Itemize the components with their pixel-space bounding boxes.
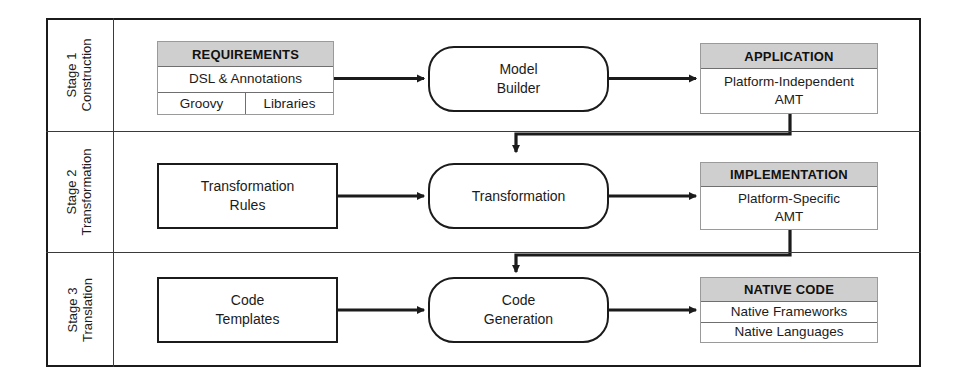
artifact-application[interactable]: APPLICATION Platform-Independent AMT <box>700 43 878 114</box>
process-code-generation-line2: Generation <box>484 310 553 329</box>
process-transformation[interactable]: Transformation <box>428 163 609 229</box>
box-transformation-rules[interactable]: Transformation Rules <box>157 163 338 229</box>
artifact-implementation-line2: AMT <box>738 208 840 226</box>
process-model-builder-line2: Builder <box>497 79 541 98</box>
process-code-generation-line1: Code <box>484 291 553 310</box>
stage-1-label-line2: Construction <box>80 38 95 111</box>
process-code-generation[interactable]: Code Generation <box>428 277 609 343</box>
stage-divider-1 <box>46 131 921 132</box>
process-transformation-line1: Transformation <box>472 187 566 206</box>
box-transformation-rules-label: Transformation Rules <box>201 177 295 215</box>
artifact-requirements-cell-groovy: Groovy <box>158 93 246 115</box>
artifact-native-code[interactable]: NATIVE CODE Native Frameworks Native Lan… <box>700 277 878 343</box>
stage-label-stage-2: Stage 2 Transformation <box>46 131 113 252</box>
stage-divider-2 <box>46 252 921 253</box>
artifact-application-header: APPLICATION <box>701 44 877 69</box>
box-transformation-rules-line1: Transformation <box>201 177 295 196</box>
box-transformation-rules-line2: Rules <box>201 196 295 215</box>
artifact-requirements-cell-libraries: Libraries <box>246 93 333 115</box>
process-code-generation-label: Code Generation <box>484 291 553 329</box>
box-code-templates[interactable]: Code Templates <box>157 277 338 343</box>
artifact-implementation[interactable]: IMPLEMENTATION Platform-Specific AMT <box>700 162 878 230</box>
artifact-implementation-header: IMPLEMENTATION <box>701 163 877 187</box>
stage-3-label-line2: Translation <box>79 278 94 342</box>
process-model-builder[interactable]: Model Builder <box>428 46 609 112</box>
stage-label-stage-3: Stage 3 Translation <box>46 252 113 367</box>
artifact-implementation-line1: Platform-Specific <box>738 190 840 208</box>
stage-2-label-line1: Stage 2 <box>65 148 80 235</box>
artifact-requirements-row-dsl: DSL & Annotations <box>158 67 333 93</box>
box-code-templates-line1: Code <box>216 291 280 310</box>
artifact-application-line2: AMT <box>724 91 854 109</box>
artifact-application-line1: Platform-Independent <box>724 73 854 91</box>
stage-label-stage-1: Stage 1 Construction <box>46 18 113 131</box>
stage-2-label-line2: Transformation <box>80 148 95 235</box>
box-code-templates-label: Code Templates <box>216 291 280 329</box>
artifact-application-body: Platform-Independent AMT <box>701 69 877 113</box>
artifact-native-code-header: NATIVE CODE <box>701 278 877 302</box>
artifact-native-code-row-languages: Native Languages <box>701 323 877 343</box>
artifact-requirements[interactable]: REQUIREMENTS DSL & Annotations Groovy Li… <box>157 41 334 115</box>
process-model-builder-label: Model Builder <box>497 60 541 98</box>
artifact-requirements-row-split: Groovy Libraries <box>158 93 333 115</box>
artifact-native-code-row-frameworks: Native Frameworks <box>701 302 877 323</box>
box-code-templates-line2: Templates <box>216 310 280 329</box>
process-transformation-label: Transformation <box>472 187 566 206</box>
artifact-implementation-body: Platform-Specific AMT <box>701 187 877 229</box>
stage-1-label-line1: Stage 1 <box>65 38 80 111</box>
stage-3-label-line1: Stage 3 <box>64 278 79 342</box>
process-model-builder-line1: Model <box>497 60 541 79</box>
stage-label-column-rule <box>113 18 114 367</box>
artifact-requirements-header: REQUIREMENTS <box>158 42 333 67</box>
diagram-canvas: Stage 1 Construction REQUIREMENTS DSL & … <box>0 0 969 387</box>
